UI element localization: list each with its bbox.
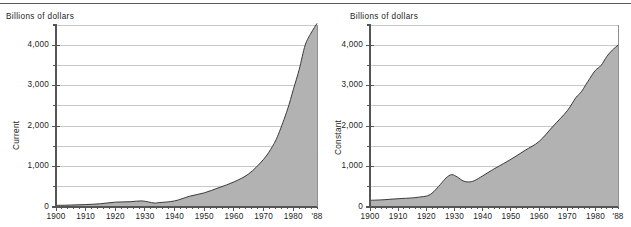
y-tick-label-3000: 3,000 [342, 80, 364, 89]
x-tick-label-1930: 1930 [439, 212, 471, 221]
y-tick-label-1000: 1,000 [342, 161, 364, 170]
x-tick-label-1960: 1960 [218, 212, 250, 221]
plot-area-current: 01,0002,0003,0004,0001900191019201930194… [0, 0, 322, 227]
y-tick-label-3000: 3,000 [28, 80, 50, 89]
x-tick-label-88: '88 [602, 212, 631, 221]
x-tick-label-1910: 1910 [70, 212, 102, 221]
chart-panel-current: Billions of dollars Current 01,0002,0003… [0, 0, 322, 227]
y-tick-label-0: 0 [358, 202, 363, 211]
x-tick-label-1960: 1960 [523, 212, 555, 221]
x-tick-label-1940: 1940 [467, 212, 499, 221]
area-fill-current [56, 23, 317, 207]
plot-area-constant: 01,0002,0003,0004,0001900191019201930194… [322, 0, 631, 227]
y-tick-label-0: 0 [44, 202, 49, 211]
y-tick-label-2000: 2,000 [28, 121, 50, 130]
y-tick-label-4000: 4,000 [28, 40, 50, 49]
x-tick-label-1930: 1930 [129, 212, 161, 221]
x-tick-label-1940: 1940 [159, 212, 191, 221]
y-tick-label-1000: 1,000 [28, 161, 50, 170]
x-tick-label-1970: 1970 [248, 212, 280, 221]
x-tick-label-1920: 1920 [99, 212, 131, 221]
chart-svg-constant [322, 0, 631, 227]
x-tick-label-1910: 1910 [382, 212, 414, 221]
y-tick-label-4000: 4,000 [342, 40, 364, 49]
chart-svg-current [0, 0, 322, 227]
x-tick-label-1900: 1900 [40, 212, 72, 221]
y-tick-label-2000: 2,000 [342, 121, 364, 130]
x-tick-label-1970: 1970 [551, 212, 583, 221]
x-tick-label-1950: 1950 [188, 212, 220, 221]
chart-panel-constant: Billions of dollars Constant 01,0002,000… [322, 0, 631, 227]
